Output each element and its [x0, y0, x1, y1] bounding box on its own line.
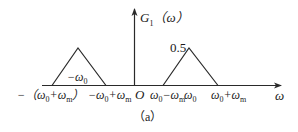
tick-label-neg-outer: −（ω0+ωm）	[17, 89, 84, 104]
tick-text: +ω	[50, 88, 67, 102]
tick-sub: m	[125, 95, 131, 104]
tick-sub: 0	[192, 95, 196, 104]
left-center-text: −ω	[67, 70, 84, 84]
tick-text: +ω	[223, 88, 240, 102]
tick-label-neg-inner: −ω0+ωm	[88, 89, 131, 104]
tick-text: −ω	[162, 88, 179, 102]
peak-label: 0.5	[170, 41, 186, 54]
tick-sub: m	[240, 95, 246, 104]
y-label-arg: （ω）	[153, 10, 188, 25]
tick-text: ）	[72, 88, 84, 102]
left-center-sub: 0	[84, 77, 88, 86]
left-center-label: −ω0	[67, 71, 88, 86]
x-axis-label: ω	[275, 89, 284, 102]
y-label-g: G	[140, 10, 149, 25]
tick-text: +ω	[109, 88, 126, 102]
caption: （a）	[133, 111, 162, 123]
tick-text: −ω	[88, 88, 105, 102]
tick-label-pos-inner: ω0−ωm	[150, 89, 185, 104]
spectrum-diagram: G1（ω） 0.5 −ω0 −（ω0+ωm） −ω0+ωm O ω0−ωm ω0…	[0, 0, 298, 132]
tick-label-center: ω0	[184, 89, 196, 104]
y-axis-label: G1（ω）	[140, 11, 189, 28]
tick-text: −（ω	[17, 88, 46, 102]
origin-label: O	[135, 88, 144, 101]
tick-label-pos-outer: ω0+ωm	[211, 89, 246, 104]
